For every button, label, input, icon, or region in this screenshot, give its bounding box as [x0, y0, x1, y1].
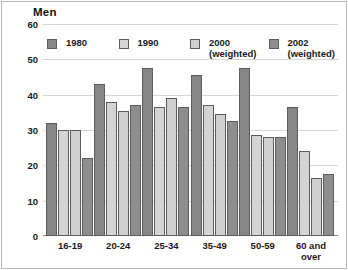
legend-label: 1990 [138, 38, 159, 49]
x-tick-label: 35-49 [191, 240, 239, 268]
legend-item[interactable]: 2000 (weighted) [190, 38, 257, 59]
chart-title: Men [33, 6, 57, 18]
bar [215, 114, 226, 236]
x-tick-label: 50-59 [239, 240, 287, 268]
legend-item[interactable]: 1980 [47, 38, 107, 49]
legend-swatch-icon [119, 39, 129, 49]
y-tick-label: 50 [12, 54, 38, 65]
y-tick-label: 0 [12, 231, 38, 242]
bar [166, 98, 177, 236]
bar [154, 107, 165, 236]
chart-legend: 198019902000 (weighted)2002 (weighted) [47, 38, 335, 59]
bar [203, 105, 214, 236]
bar [130, 105, 141, 236]
bar [142, 68, 153, 236]
bar [58, 130, 69, 236]
legend-label: 2002 (weighted) [288, 38, 336, 59]
bar [299, 151, 310, 236]
y-tick-label: 20 [12, 160, 38, 171]
bar [191, 75, 202, 236]
bar [275, 137, 286, 236]
legend-swatch-icon [269, 39, 279, 49]
bar [70, 130, 81, 236]
legend-label: 2000 (weighted) [209, 38, 257, 59]
bar [311, 178, 322, 236]
legend-item[interactable]: 2002 (weighted) [269, 38, 336, 59]
bar [118, 111, 129, 236]
bar [227, 121, 238, 236]
y-tick-label: 60 [12, 19, 38, 30]
y-tick-label: 30 [12, 125, 38, 136]
bar [46, 123, 57, 236]
bar [323, 174, 334, 236]
legend-swatch-icon [190, 39, 200, 49]
bar [239, 68, 250, 236]
x-tick-label: 25-34 [142, 240, 190, 268]
y-axis: 0102030405060 [8, 24, 38, 236]
x-tick-label: 20-24 [94, 240, 142, 268]
bar [251, 135, 262, 236]
bar [94, 84, 105, 236]
legend-swatch-icon [47, 39, 57, 49]
x-tick-label: 60 and over [287, 240, 335, 268]
legend-label: 1980 [66, 38, 87, 49]
bar-chart: Men 0102030405060 16-1920-2425-3435-4950… [0, 0, 348, 270]
bar [287, 107, 298, 236]
bar [106, 102, 117, 236]
x-tick-label: 16-19 [46, 240, 94, 268]
y-tick-label: 40 [12, 89, 38, 100]
bar [82, 158, 93, 236]
bar [263, 137, 274, 236]
y-tick-label: 10 [12, 195, 38, 206]
legend-item[interactable]: 1990 [119, 38, 179, 49]
bar [178, 107, 189, 236]
x-axis-tick-labels: 16-1920-2425-3435-4950-5960 and over [43, 240, 338, 268]
